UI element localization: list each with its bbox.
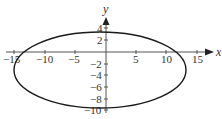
y-axis-arrow-icon — [103, 17, 110, 25]
x-tick-label: −10 — [36, 53, 54, 65]
y-tick-label: 2 — [97, 34, 103, 46]
ellipse-chart: x y −15 −10 −5 5 10 15 4 2 −2 −4 −6 −8 −… — [0, 0, 222, 119]
x-axis-label: x — [215, 45, 222, 59]
y-axis-label: y — [102, 2, 109, 16]
x-tick-label: 10 — [161, 53, 173, 65]
x-axis-arrow-icon — [205, 49, 214, 56]
y-tick-label: −10 — [84, 104, 102, 116]
y-tick-label: −4 — [90, 69, 102, 81]
x-tick-label: 15 — [192, 53, 204, 65]
y-tick-label: −6 — [90, 81, 102, 93]
x-tick-label: −5 — [68, 53, 80, 65]
x-tick-label: 5 — [133, 53, 139, 65]
